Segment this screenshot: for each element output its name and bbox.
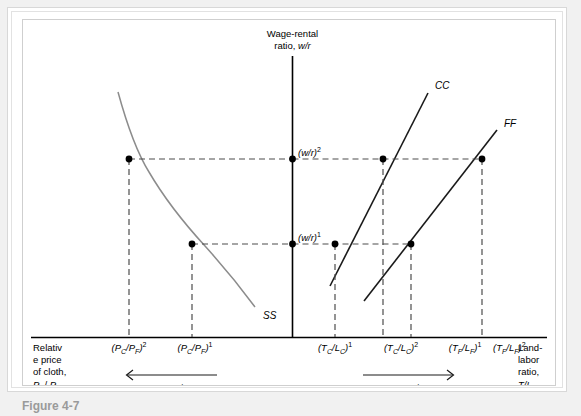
svg-text:Wage-rental: Wage-rental (267, 28, 318, 39)
axis-group (31, 56, 547, 338)
x-tick-labels-right: (TC/LC)1 (TC/LC)2 (TF/LF)1 (TF/LF)2 (318, 341, 526, 355)
point-cc-low (332, 241, 339, 248)
x-tick-label-pc-pf-2: (PC/PF)2 (112, 341, 147, 355)
right-axis-title-line1: Land- (518, 342, 542, 353)
left-axis-title-line1: Relativ (33, 342, 62, 353)
ss-curve-path (118, 92, 255, 307)
guides-wr1 (192, 244, 411, 337)
cc-curve-path (330, 93, 428, 286)
increasing-left-label: Increasing (150, 382, 194, 386)
y-axis-title-line2-prefix: ratio, (274, 40, 298, 51)
right-axis-title-line4: T/L (518, 379, 532, 386)
left-axis-title-line4: PC/ PF (33, 379, 61, 386)
economics-two-quadrant-diagram: Wage-rental ratio, w/r SS CC FF (23, 20, 556, 386)
chart-panel: Wage-rental ratio, w/r SS CC FF (22, 19, 556, 386)
ff-curve-path (364, 130, 497, 301)
point-ss-low (189, 241, 196, 248)
y-axis-title-line1: Wage-rental (267, 28, 318, 39)
y-axis-title: Wage-rental ratio, w/r (267, 28, 318, 51)
increasing-right-group: Increasing (363, 370, 454, 386)
left-axis-title: Relativ e price of cloth, PC/ PF (33, 342, 66, 386)
x-tick-labels-left: (PC/PF)2 (PC/PF)1 (112, 341, 213, 355)
increasing-right-label: Increasing (386, 382, 430, 386)
increasing-left-group: Increasing (127, 370, 218, 386)
x-tick-label-tf-lf-1: (TF/LF)1 (449, 341, 482, 355)
y-axis-title-line2-italic: w/r (298, 40, 312, 51)
point-axis-wr2 (289, 156, 296, 163)
left-axis-title-line3: of cloth, (33, 366, 66, 377)
right-axis-title-line2: labor (518, 354, 539, 365)
y-tick-label-wr2: (w/r)2 (298, 146, 321, 158)
tick-pc2-exp: 2 (143, 341, 147, 348)
ss-curve-label: SS (263, 310, 277, 321)
left-axis-title-line2: e price (33, 354, 62, 365)
tick-tc1-exp: 1 (348, 341, 352, 348)
x-tick-label-pc-pf-1: (PC/PF)1 (178, 341, 213, 355)
point-axis-wr1 (289, 241, 296, 248)
y-tick-wr1-base: (w/r) (298, 232, 317, 243)
x-tick-label-tc-lc-2: (TC/LC)2 (384, 341, 418, 355)
point-ff-high (479, 156, 486, 163)
y-tick-wr1-exp: 1 (317, 231, 321, 238)
tick-tf1-exp: 1 (477, 341, 481, 348)
point-cc-high (380, 156, 387, 163)
point-ss-high (126, 156, 133, 163)
cc-curve-label: CC (435, 80, 450, 91)
svg-text:ratio, w/r: ratio, w/r (274, 40, 311, 51)
y-tick-wr2-base: (w/r) (298, 147, 317, 158)
ff-curve-label: FF (504, 118, 517, 129)
ss-curve-group: SS (118, 92, 277, 321)
figure-caption-text: Figure 4-7 (22, 400, 442, 413)
figure-caption-strip: Figure 4-7 (22, 400, 442, 416)
y-tick-wr2-exp: 2 (317, 146, 321, 153)
y-tick-label-wr1: (w/r)1 (298, 231, 321, 243)
right-axis-title-line3: ratio, (518, 366, 539, 377)
point-ff-low (408, 241, 415, 248)
y-tick-labels: (w/r)2 (w/r)1 (298, 146, 321, 243)
cc-curve-group: CC (330, 80, 450, 286)
guides-wr2 (129, 159, 482, 337)
figure-root: Wage-rental ratio, w/r SS CC FF (0, 0, 581, 416)
ff-curve-group: FF (364, 118, 517, 301)
tick-tc2-exp: 2 (414, 341, 418, 348)
left-title-p2-sub: F (56, 385, 61, 387)
right-axis-title: Land- labor ratio, T/L (518, 342, 542, 386)
tick-pc1-exp: 1 (209, 341, 213, 348)
x-tick-label-tc-lc-1: (TC/LC)1 (318, 341, 352, 355)
